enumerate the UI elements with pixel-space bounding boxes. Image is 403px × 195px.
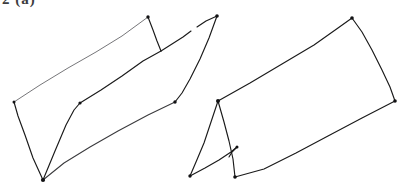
right-bottom-edge (235, 101, 395, 177)
left-short-fold-segment (148, 17, 161, 51)
right-flap-bottom-edge (190, 147, 237, 176)
left-vertex-right-mid (173, 100, 176, 103)
right-vertex-box-right (393, 99, 397, 103)
left-top-left-long-edge (14, 17, 148, 102)
right-vertex-box-top (350, 16, 354, 20)
left-vertex-top-fold (146, 15, 149, 18)
sketch-canvas: 2 (a) (0, 0, 403, 195)
left-bottom-left-edge (14, 102, 43, 180)
sketch-drawing (0, 0, 403, 195)
left-lower-right-edge (43, 102, 175, 180)
left-vertex-left (13, 101, 16, 104)
left-vertex-apex (215, 14, 219, 18)
left-folded-prism-group (13, 14, 219, 182)
right-top-edge (218, 18, 352, 101)
left-inner-fold-upper (80, 51, 161, 103)
right-vertex-box-left (216, 99, 220, 103)
right-vertex-flap-bottom (188, 174, 191, 177)
right-flap-right-edge (218, 101, 235, 177)
left-vertex-inner-fold (78, 101, 81, 104)
left-upper-right-edge-part-a (161, 31, 191, 51)
right-folded-box-group (188, 16, 397, 179)
right-vertex-box-bottom (233, 175, 237, 179)
left-vertex-bottom (41, 178, 45, 182)
right-vertex-flap-notch (236, 146, 239, 149)
right-flap-left-edge (190, 101, 218, 176)
right-upper-right-edge (352, 18, 395, 101)
left-inner-fold-line (43, 103, 80, 180)
left-apex-down-right-edge (175, 16, 217, 102)
